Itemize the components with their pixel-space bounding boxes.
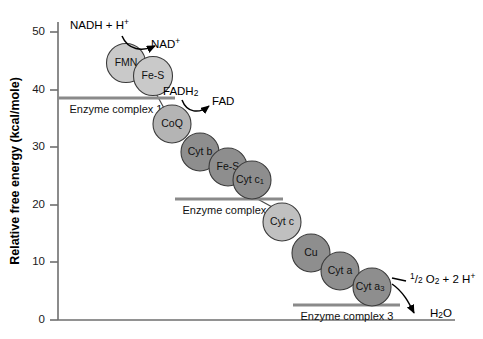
carrier-label-cyt-a: Cyt a <box>328 264 353 276</box>
carrier-label-cyt-a3-text: Cyt a <box>356 280 381 292</box>
y-tick-label-40: 40 <box>32 83 45 95</box>
y-tick-label-50: 50 <box>32 25 45 37</box>
reactant-oxygen-sup: + <box>470 271 475 281</box>
carrier-label-cyt-c1-text: Cyt c <box>236 173 260 185</box>
carrier-label-cyt-b: Cyt b <box>188 145 213 157</box>
reactant-oxygen-text: O <box>423 273 435 285</box>
product-water-tail: O <box>443 307 452 319</box>
enzyme-complex-2-label: Enzyme complex 2 <box>183 204 276 216</box>
carrier-label-coq: CoQ <box>161 117 183 129</box>
reaction-line-oxygen-in <box>392 278 406 281</box>
y-tick-label-0: 0 <box>39 313 45 325</box>
reaction-oxygen: 1/2 O2 + 2 H+ H2O <box>392 271 475 320</box>
electron-transport-chain-figure: 50 40 30 20 10 0 Relative free energy (k… <box>0 0 483 339</box>
reactant-label-nadh: NADH + H+ <box>70 17 129 31</box>
y-tick-label-10: 10 <box>32 255 45 267</box>
reactant-oxygen-tail: + 2 H <box>439 273 470 285</box>
carrier-label-cyt-a3: Cyt a3 <box>356 280 385 293</box>
reactant-nadh-sup: + <box>124 17 129 27</box>
carrier-label-cu: Cu <box>304 246 318 258</box>
reactant-label-fadh2: FADH2 <box>163 85 199 98</box>
reactant-nadh-text: NADH + H <box>70 19 124 31</box>
y-tick-label-30: 30 <box>32 140 45 152</box>
product-water-text: H <box>430 307 438 319</box>
product-label-fad: FAD <box>212 95 234 107</box>
enzyme-complex-1-label: Enzyme complex 1 <box>70 103 163 115</box>
y-axis: 50 40 30 20 10 0 Relative free energy (k… <box>8 22 58 325</box>
enzyme-complex-3-label: Enzyme complex 3 <box>301 310 394 322</box>
carrier-label-cyt-a3-sub: 3 <box>380 284 384 293</box>
carrier-label-cyt-c1-sub: 1 <box>260 177 264 186</box>
enzyme-complex-3: Enzyme complex 3 <box>293 305 400 322</box>
y-tick-label-20: 20 <box>32 198 45 210</box>
y-axis-title: Relative free energy (kcal/mole) <box>8 77 22 265</box>
diagram-canvas: 50 40 30 20 10 0 Relative free energy (k… <box>0 0 483 339</box>
reactant-label-oxygen: 1/2 O2 + 2 H+ <box>410 271 475 286</box>
carrier-chain: FMN Fe-S CoQ Cyt b Fe-S Cyt c1 Cyt c Cu … <box>107 44 392 307</box>
product-label-water: H2O <box>430 307 452 320</box>
carrier-label-fe-s-1: Fe-S <box>142 69 165 81</box>
carrier-label-fmn: FMN <box>115 56 138 68</box>
product-nad-sup: + <box>175 36 180 46</box>
product-nad-text: NAD <box>151 38 175 50</box>
reaction-arrow-fadh2 <box>182 100 209 111</box>
product-label-nad: NAD+ <box>151 36 180 50</box>
reaction-arrow-water <box>392 284 414 313</box>
reactant-fadh2-sub: 2 <box>194 88 199 98</box>
carrier-label-cyt-c: Cyt c <box>270 215 294 227</box>
reactant-fadh2-text: FADH <box>163 85 194 97</box>
